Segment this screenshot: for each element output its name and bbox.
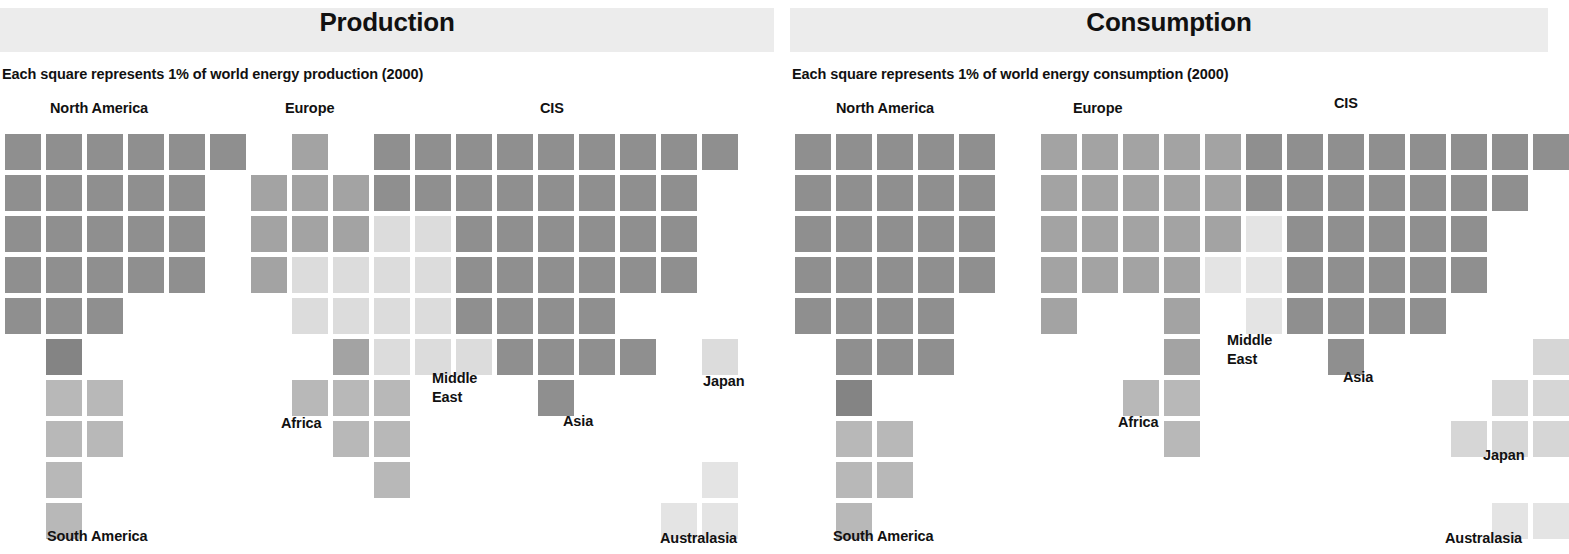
square-middle-east	[292, 298, 328, 334]
square-asia	[1328, 298, 1364, 334]
square-cis	[661, 134, 697, 170]
square-middle-east	[374, 257, 410, 293]
square-cis	[1451, 216, 1487, 252]
square-cis	[374, 134, 410, 170]
square-cis	[415, 175, 451, 211]
square-cis	[620, 257, 656, 293]
region-label-middle-east: Middle East	[432, 369, 477, 407]
region-label-asia: Asia	[1343, 368, 1373, 387]
square-middle-east	[333, 298, 369, 334]
square-cis	[579, 257, 615, 293]
square-japan	[1533, 421, 1569, 457]
square-europe	[292, 175, 328, 211]
region-label-europe: Europe	[1073, 99, 1122, 118]
square-australasia	[1533, 503, 1569, 539]
square-europe	[292, 134, 328, 170]
square-cis	[1369, 175, 1405, 211]
square-cis	[1533, 134, 1569, 170]
square-cis	[1328, 257, 1364, 293]
square-middle-east	[1164, 339, 1200, 375]
region-label-middle-east: Middle East	[1227, 331, 1272, 369]
square-north-america	[87, 298, 123, 334]
square-cis	[538, 257, 574, 293]
square-cis	[1205, 257, 1241, 293]
region-label-south-america: South America	[833, 527, 934, 546]
square-north-america	[169, 257, 205, 293]
square-africa	[1164, 421, 1200, 457]
square-middle-east	[415, 257, 451, 293]
square-cis	[661, 175, 697, 211]
square-europe	[1041, 175, 1077, 211]
square-north-america	[46, 216, 82, 252]
square-africa	[374, 462, 410, 498]
square-north-america	[87, 134, 123, 170]
region-label-japan: Japan	[703, 372, 744, 391]
square-asia	[1410, 298, 1446, 334]
square-north-america	[918, 175, 954, 211]
square-africa	[1164, 380, 1200, 416]
square-japan	[1533, 380, 1569, 416]
consumption-panel: Consumption Each square represents 1% of…	[790, 0, 1548, 554]
square-south-america	[46, 462, 82, 498]
square-cis	[579, 134, 615, 170]
square-cis	[456, 175, 492, 211]
square-cis	[497, 175, 533, 211]
square-cis	[456, 257, 492, 293]
square-cis	[538, 175, 574, 211]
square-north-america	[877, 175, 913, 211]
square-europe	[1164, 216, 1200, 252]
square-north-america	[918, 134, 954, 170]
square-south-america	[877, 421, 913, 457]
square-asia	[538, 298, 574, 334]
square-asia	[538, 339, 574, 375]
square-asia	[1369, 298, 1405, 334]
square-cis	[456, 216, 492, 252]
square-north-america	[836, 134, 872, 170]
square-japan	[1492, 380, 1528, 416]
square-north-america	[210, 134, 246, 170]
square-north-america	[836, 216, 872, 252]
square-north-america	[877, 216, 913, 252]
square-south-america	[836, 462, 872, 498]
square-north-america	[46, 298, 82, 334]
square-cis	[1287, 257, 1323, 293]
square-cis	[620, 175, 656, 211]
square-north-america	[959, 216, 995, 252]
square-south-america	[87, 421, 123, 457]
square-cis	[1328, 134, 1364, 170]
region-label-north-america: North America	[836, 99, 934, 118]
square-south-america	[836, 380, 872, 416]
square-north-america	[795, 216, 831, 252]
square-cis	[1451, 257, 1487, 293]
square-asia	[620, 339, 656, 375]
square-north-america	[87, 216, 123, 252]
square-cis	[1369, 134, 1405, 170]
square-africa	[1123, 380, 1159, 416]
square-asia	[579, 298, 615, 334]
square-cis	[1246, 257, 1282, 293]
square-europe	[1082, 216, 1118, 252]
square-europe	[251, 257, 287, 293]
region-label-australasia: Australasia	[660, 529, 737, 548]
square-north-america	[877, 298, 913, 334]
square-cis	[661, 216, 697, 252]
production-grid: North AmericaSouth AmericaEuropeAfricaMi…	[0, 0, 774, 554]
square-south-america	[836, 421, 872, 457]
square-cis	[1287, 216, 1323, 252]
square-africa	[333, 421, 369, 457]
square-europe	[1205, 134, 1241, 170]
square-north-america	[169, 134, 205, 170]
square-europe	[1082, 175, 1118, 211]
square-north-america	[169, 175, 205, 211]
square-europe	[333, 216, 369, 252]
square-europe	[1164, 134, 1200, 170]
region-label-japan: Japan	[1483, 446, 1524, 465]
square-north-america	[5, 175, 41, 211]
square-cis	[1246, 216, 1282, 252]
square-south-america	[46, 339, 82, 375]
square-cis	[456, 134, 492, 170]
square-north-america	[877, 134, 913, 170]
square-europe	[292, 216, 328, 252]
square-africa	[333, 380, 369, 416]
square-europe	[1041, 257, 1077, 293]
